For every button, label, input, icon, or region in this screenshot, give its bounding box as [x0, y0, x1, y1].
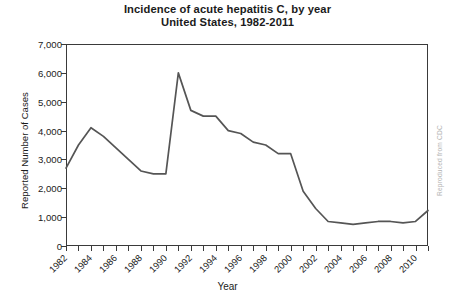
x-axis-tick-mark — [353, 246, 354, 251]
chart-title-line-2: United States, 1982-2011 — [0, 16, 455, 29]
y-axis-tick-label: 1,000 — [20, 212, 62, 223]
x-axis-tick-mark — [78, 246, 79, 251]
x-axis-tick-label: 2002 — [297, 253, 319, 275]
x-axis-tick-mark — [178, 246, 179, 251]
x-axis-tick-label: 2008 — [372, 253, 394, 275]
x-axis-tick-mark — [128, 246, 129, 251]
x-axis-tick-mark — [241, 246, 242, 251]
x-axis-tick-label: 1994 — [197, 253, 219, 275]
x-axis-tick-mark — [216, 246, 217, 251]
x-axis-tick-label: 2004 — [322, 253, 344, 275]
x-axis-tick-mark — [91, 246, 92, 251]
x-axis-tick-mark — [103, 246, 104, 251]
x-axis-tick-mark — [203, 246, 204, 251]
line-series-path — [66, 73, 428, 225]
x-axis-tick-mark — [428, 246, 429, 251]
y-axis-tick-label: 4,000 — [20, 125, 62, 136]
y-axis-tick-label: 7,000 — [20, 39, 62, 50]
x-axis-tick-mark — [291, 246, 292, 251]
x-axis-tick-mark — [303, 246, 304, 251]
x-axis-tick-mark — [328, 246, 329, 251]
x-axis-tick-mark — [366, 246, 367, 251]
x-axis-tick-label: 2000 — [272, 253, 294, 275]
y-axis-tick-label: 2,000 — [20, 183, 62, 194]
y-axis-tick-label: 0 — [20, 241, 62, 252]
chart-figure: Incidence of acute hepatitis C, by year … — [0, 0, 455, 307]
x-axis-tick-mark — [116, 246, 117, 251]
x-axis-tick-mark — [403, 246, 404, 251]
x-axis-tick-label: 2006 — [347, 253, 369, 275]
y-axis-tick-label: 5,000 — [20, 96, 62, 107]
x-axis-tick-mark — [341, 246, 342, 251]
x-axis-tick-mark — [228, 246, 229, 251]
x-axis-tick-label: 1988 — [122, 253, 144, 275]
y-axis-tick-label: 3,000 — [20, 154, 62, 165]
x-axis-tick-label: 1984 — [72, 253, 94, 275]
credit-text: Reproduced from CDC — [436, 125, 443, 196]
x-axis-tick-mark — [66, 246, 67, 251]
x-axis-tick-mark — [378, 246, 379, 251]
x-axis-tick-mark — [278, 246, 279, 251]
chart-title-block: Incidence of acute hepatitis C, by year … — [0, 3, 455, 29]
x-axis-tick-label: 1998 — [247, 253, 269, 275]
x-axis-tick-mark — [166, 246, 167, 251]
x-axis-title: Year — [0, 281, 455, 292]
x-axis-tick-mark — [316, 246, 317, 251]
x-axis-tick-mark — [416, 246, 417, 251]
x-axis-tick-mark — [253, 246, 254, 251]
x-axis-tick-label: 1992 — [172, 253, 194, 275]
line-series-svg — [66, 44, 428, 246]
x-axis-tick-mark — [391, 246, 392, 251]
x-axis-tick-mark — [141, 246, 142, 251]
x-axis-tick-label: 1990 — [147, 253, 169, 275]
x-axis-tick-mark — [153, 246, 154, 251]
x-axis-tick-mark — [266, 246, 267, 251]
x-axis-tick-label: 2010 — [397, 253, 419, 275]
y-axis-tick-label: 6,000 — [20, 67, 62, 78]
chart-title-line-1: Incidence of acute hepatitis C, by year — [0, 3, 455, 16]
x-axis-tick-mark — [191, 246, 192, 251]
x-axis-tick-label: 1996 — [222, 253, 244, 275]
x-axis-tick-label: 1986 — [97, 253, 119, 275]
